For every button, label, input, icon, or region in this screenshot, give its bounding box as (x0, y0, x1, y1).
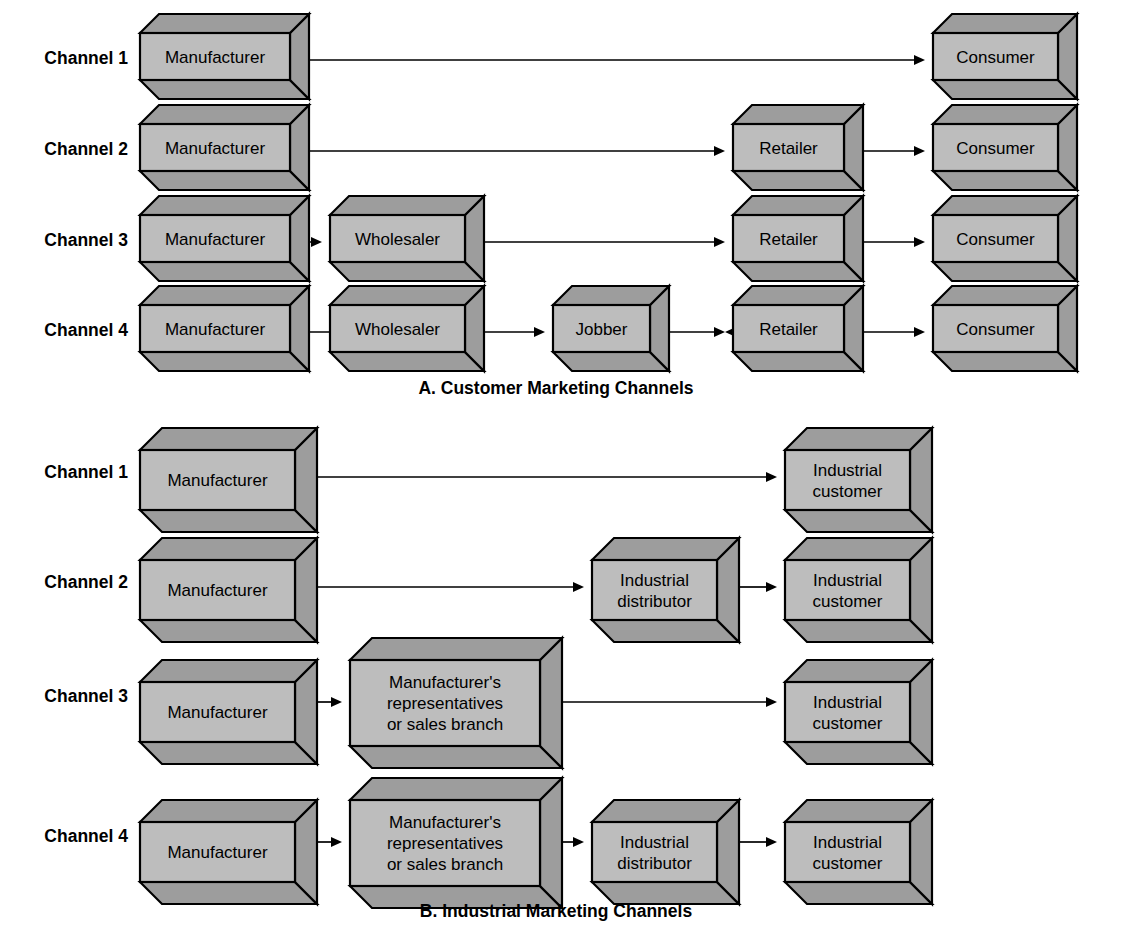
process-box[interactable]: Manufacturer (140, 286, 309, 371)
box-label: Consumer (956, 139, 1035, 158)
process-box[interactable]: Retailer (733, 196, 863, 281)
flow-arrow[interactable] (562, 697, 777, 707)
channel-row[interactable]: Channel 4ManufacturerManufacturer'srepre… (44, 778, 932, 908)
channel-row[interactable]: Channel 2ManufacturerRetailerConsumer (44, 105, 1077, 190)
box-bottom-face (330, 352, 484, 371)
box-top-face (140, 538, 317, 560)
process-box[interactable]: Industrialcustomer (785, 538, 932, 642)
process-box[interactable]: Jobber (553, 286, 669, 371)
channel-row[interactable]: Channel 1ManufacturerConsumer (44, 14, 1077, 99)
box-top-face (733, 105, 863, 124)
box-label: distributor (617, 854, 692, 873)
process-box[interactable]: Manufacturer (140, 14, 309, 99)
section-caption: B. Industrial Marketing Channels (420, 901, 693, 921)
process-box[interactable]: Industrialcustomer (785, 428, 932, 532)
box-bottom-face (933, 171, 1077, 190)
channel-row[interactable]: Channel 1ManufacturerIndustrialcustomer (44, 428, 932, 532)
box-top-face (140, 286, 309, 305)
process-box[interactable]: Wholesaler (330, 196, 484, 281)
box-top-face (350, 778, 562, 800)
box-top-face (330, 196, 484, 215)
box-label: Manufacturer's (389, 813, 501, 832)
process-box[interactable]: Manufacturer (140, 660, 317, 764)
channel-row[interactable]: Channel 2ManufacturerIndustrialdistribut… (44, 538, 932, 642)
channel-row[interactable]: Channel 3ManufacturerWholesalerRetailerC… (44, 196, 1077, 281)
arrow-head (914, 327, 925, 337)
process-box[interactable]: Consumer (933, 196, 1077, 281)
arrow-head (766, 582, 777, 592)
process-box[interactable]: Manufacturer (140, 800, 317, 904)
box-bottom-face (933, 80, 1077, 99)
box-label: or sales branch (387, 715, 503, 734)
flow-arrow[interactable] (863, 327, 925, 337)
flow-arrow[interactable] (484, 237, 725, 247)
box-top-face (592, 538, 739, 560)
box-label: Manufacturer's (389, 673, 501, 692)
process-box[interactable]: Wholesaler (330, 286, 484, 371)
box-label: Industrial (620, 833, 689, 852)
process-box[interactable]: Manufacturer (140, 538, 317, 642)
box-top-face (140, 428, 317, 450)
process-box[interactable]: Retailer (733, 105, 863, 190)
box-top-face (553, 286, 669, 305)
process-box[interactable]: Industrialcustomer (785, 660, 932, 764)
box-label: or sales branch (387, 855, 503, 874)
box-top-face (933, 105, 1077, 124)
box-bottom-face (933, 352, 1077, 371)
process-box[interactable]: Manufacturer (140, 196, 309, 281)
process-box[interactable]: Retailer (733, 286, 863, 371)
flow-arrow[interactable] (863, 237, 925, 247)
box-top-face (933, 286, 1077, 305)
box-front-face (592, 560, 717, 620)
box-label: Wholesaler (355, 230, 440, 249)
flow-arrow[interactable] (318, 582, 584, 592)
diagram-canvas: Channel 1ManufacturerConsumerChannel 2Ma… (0, 0, 1127, 944)
box-label: Manufacturer (165, 230, 265, 249)
process-box[interactable]: Consumer (933, 286, 1077, 371)
box-label: Wholesaler (355, 320, 440, 339)
flow-arrow[interactable] (318, 472, 777, 482)
box-label: Manufacturer (165, 48, 265, 67)
flow-arrow[interactable] (562, 837, 584, 847)
process-box[interactable]: Manufacturer'srepresentativesor sales br… (350, 778, 562, 908)
arrow-head (714, 237, 725, 247)
arrow-head (766, 472, 777, 482)
flow-arrow[interactable] (309, 237, 322, 247)
section-b[interactable]: Channel 1ManufacturerIndustrialcustomerC… (44, 428, 932, 921)
flow-arrow[interactable] (318, 697, 342, 707)
flow-arrow[interactable] (740, 837, 777, 847)
channel-label: Channel 3 (44, 230, 128, 250)
flow-arrow[interactable] (669, 327, 725, 337)
process-box[interactable]: Industrialdistributor (592, 800, 739, 904)
process-box[interactable]: Manufacturer (140, 428, 317, 532)
section-a[interactable]: Channel 1ManufacturerConsumerChannel 2Ma… (44, 14, 1077, 398)
process-box[interactable]: Manufacturer'srepresentativesor sales br… (350, 638, 562, 768)
channel-label: Channel 2 (44, 572, 128, 592)
box-front-face (785, 450, 910, 510)
box-bottom-face (733, 352, 863, 371)
box-label: Industrial (813, 833, 882, 852)
flow-arrow[interactable] (863, 146, 925, 156)
flow-arrow[interactable] (318, 837, 342, 847)
channel-label: Channel 1 (44, 48, 128, 68)
box-bottom-face (785, 742, 932, 764)
box-bottom-face (140, 742, 317, 764)
flow-arrow[interactable] (309, 55, 925, 65)
process-box[interactable]: Industrialcustomer (785, 800, 932, 904)
flow-arrow[interactable] (740, 582, 777, 592)
process-box[interactable]: Industrialdistributor (592, 538, 739, 642)
process-box[interactable]: Consumer (933, 105, 1077, 190)
box-top-face (785, 800, 932, 822)
box-front-face (785, 822, 910, 882)
process-box[interactable]: Consumer (933, 14, 1077, 99)
box-top-face (733, 286, 863, 305)
arrow-head (534, 327, 545, 337)
box-top-face (785, 428, 932, 450)
channel-row[interactable]: Channel 4ManufacturerWholesalerJobberRet… (44, 286, 1077, 371)
flow-arrow[interactable] (309, 146, 725, 156)
box-bottom-face (140, 80, 309, 99)
box-bottom-face (330, 262, 484, 281)
box-front-face (592, 822, 717, 882)
process-box[interactable]: Manufacturer (140, 105, 309, 190)
channel-row[interactable]: Channel 3ManufacturerManufacturer'srepre… (44, 638, 932, 768)
